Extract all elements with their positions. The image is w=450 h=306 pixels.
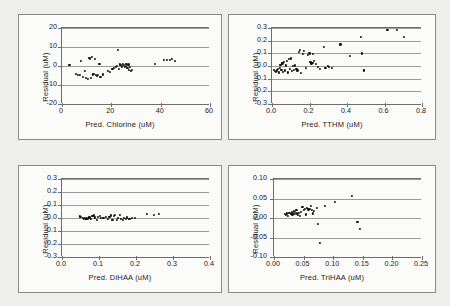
data-point bbox=[356, 220, 358, 222]
data-point bbox=[286, 60, 288, 62]
data-point bbox=[322, 46, 324, 48]
panel-tthm: Residual (uM) 0.30.20.10.0-0.1-0.2-0.3 0… bbox=[228, 14, 436, 140]
x-axis-title: Pred. Chlorine (uM) bbox=[19, 120, 221, 129]
data-point bbox=[277, 71, 279, 73]
data-point bbox=[324, 205, 326, 207]
data-point bbox=[313, 60, 315, 62]
y-tick-labels: 20100-10-20 bbox=[33, 27, 57, 103]
data-point bbox=[163, 59, 165, 61]
data-point bbox=[386, 28, 388, 30]
y-tick-label: 10 bbox=[49, 42, 57, 49]
x-tick-label: 0.20 bbox=[384, 260, 398, 267]
data-point bbox=[174, 60, 176, 62]
y-tick-label: -0.10 bbox=[251, 252, 267, 259]
y-tick-label: 0.2 bbox=[47, 187, 57, 194]
data-point bbox=[283, 61, 285, 63]
data-point bbox=[114, 214, 116, 216]
residual-plots-figure: Residual (uM) 20100-10-20 0204060 Pred. … bbox=[0, 0, 450, 306]
data-point bbox=[349, 55, 351, 57]
data-point bbox=[90, 218, 92, 220]
x-tick-label: 0.2 bbox=[130, 260, 140, 267]
y-tick-mark bbox=[270, 238, 274, 239]
y-tick-mark bbox=[268, 41, 272, 42]
data-point bbox=[111, 219, 113, 221]
y-tick-label: 0.1 bbox=[47, 200, 57, 207]
data-point bbox=[287, 215, 289, 217]
gridline bbox=[272, 91, 421, 92]
data-point bbox=[334, 201, 336, 203]
y-tick-label: 0.3 bbox=[47, 174, 57, 181]
x-tick-label: 60 bbox=[205, 107, 213, 114]
plot-area-tthm bbox=[271, 27, 421, 103]
data-point bbox=[292, 69, 294, 71]
panel-chlorine-inner: Residual (uM) 20100-10-20 0204060 Pred. … bbox=[19, 15, 221, 139]
x-axis-title: Pred. DiHAA (uM) bbox=[19, 273, 221, 282]
data-point bbox=[290, 57, 292, 59]
data-point bbox=[363, 69, 365, 71]
panel-dihaa: Residual (uM) 0.30.20.10.0-0.1-0.2-0.3 0… bbox=[18, 165, 222, 293]
data-point bbox=[403, 36, 405, 38]
y-tick-label: 0.10 bbox=[253, 174, 267, 181]
y-tick-label: -10 bbox=[47, 80, 57, 87]
x-tick-label: 0.15 bbox=[355, 260, 369, 267]
gridline bbox=[272, 79, 421, 80]
y-tick-mark bbox=[268, 53, 272, 54]
gridline bbox=[272, 41, 421, 42]
y-tick-label: 0.2 bbox=[257, 36, 267, 43]
data-point bbox=[117, 49, 119, 51]
y-tick-mark bbox=[58, 192, 62, 193]
data-point bbox=[94, 58, 96, 60]
y-tick-label: 0.05 bbox=[253, 194, 267, 201]
data-point bbox=[91, 55, 93, 57]
gridline bbox=[62, 192, 209, 193]
data-point bbox=[107, 218, 109, 220]
y-tick-mark bbox=[58, 205, 62, 206]
data-point bbox=[90, 77, 92, 79]
gridline bbox=[62, 205, 209, 206]
y-tick-mark bbox=[268, 66, 272, 67]
x-tick-label: 0.1 bbox=[93, 260, 103, 267]
gridline bbox=[62, 179, 209, 180]
y-tick-labels: 0.30.20.10.0-0.1-0.2-0.3 bbox=[31, 178, 57, 256]
data-point bbox=[79, 74, 81, 76]
gridline bbox=[62, 85, 209, 86]
data-point bbox=[89, 57, 91, 59]
panel-trihaa-inner: Residual (uM) 0.100.050.00-0.05-0.10 0.0… bbox=[229, 166, 435, 292]
y-tick-label: 0.0 bbox=[47, 213, 57, 220]
y-tick-labels: 0.100.050.00-0.05-0.10 bbox=[237, 178, 267, 256]
gridline bbox=[272, 28, 421, 29]
y-tick-label: -0.1 bbox=[255, 74, 267, 81]
x-tick-label: 0.25 bbox=[414, 260, 428, 267]
data-point bbox=[299, 215, 301, 217]
data-point bbox=[154, 63, 156, 65]
x-tick-label: 0.10 bbox=[325, 260, 339, 267]
data-point bbox=[317, 223, 319, 225]
x-tick-label: 0.0 bbox=[266, 107, 276, 114]
y-tick-mark bbox=[58, 231, 62, 232]
gridline bbox=[274, 257, 421, 258]
x-tick-label: 0.0 bbox=[56, 260, 66, 267]
data-point bbox=[316, 207, 318, 209]
gridline bbox=[274, 238, 421, 239]
y-tick-labels: 0.30.20.10.0-0.1-0.2-0.3 bbox=[241, 27, 267, 103]
x-tick-label: 0.4 bbox=[341, 107, 351, 114]
data-point bbox=[300, 211, 302, 213]
x-axis-title: Pred. TriHAA (uM) bbox=[229, 273, 435, 282]
data-point bbox=[305, 67, 307, 69]
y-tick-label: 20 bbox=[49, 23, 57, 30]
y-tick-label: 0 bbox=[53, 61, 57, 68]
data-point bbox=[171, 58, 173, 60]
data-point bbox=[146, 213, 148, 215]
gridline bbox=[62, 231, 209, 232]
y-tick-label: 0.00 bbox=[253, 213, 267, 220]
y-tick-mark bbox=[270, 199, 274, 200]
data-point bbox=[84, 69, 86, 71]
data-point bbox=[303, 50, 305, 52]
data-point bbox=[315, 63, 317, 65]
data-point bbox=[99, 76, 101, 78]
data-point bbox=[312, 212, 314, 214]
x-tick-label: 0.05 bbox=[296, 260, 310, 267]
data-point bbox=[312, 53, 314, 55]
x-tick-label: 0.6 bbox=[379, 107, 389, 114]
data-point bbox=[80, 60, 82, 62]
